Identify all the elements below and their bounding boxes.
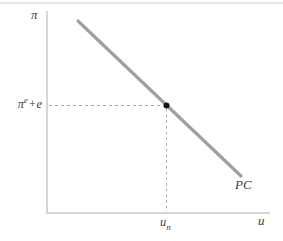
y-axis-label: π	[31, 8, 38, 21]
expected-inflation-tail: +e	[28, 97, 42, 111]
curve-label-pc: PC	[235, 178, 252, 191]
natural-rate-label: un	[160, 216, 171, 229]
phillips-curve-line	[78, 21, 241, 176]
figure-canvas	[0, 0, 283, 241]
equilibrium-point	[164, 103, 170, 109]
natural-rate-subscript: n	[166, 222, 171, 232]
x-axis-label: u	[258, 214, 265, 227]
phillips-curve-figure: π πe+e un u PC	[0, 0, 283, 241]
top-border-rule	[0, 2, 283, 4]
expected-inflation-label: πe+e	[8, 98, 42, 111]
